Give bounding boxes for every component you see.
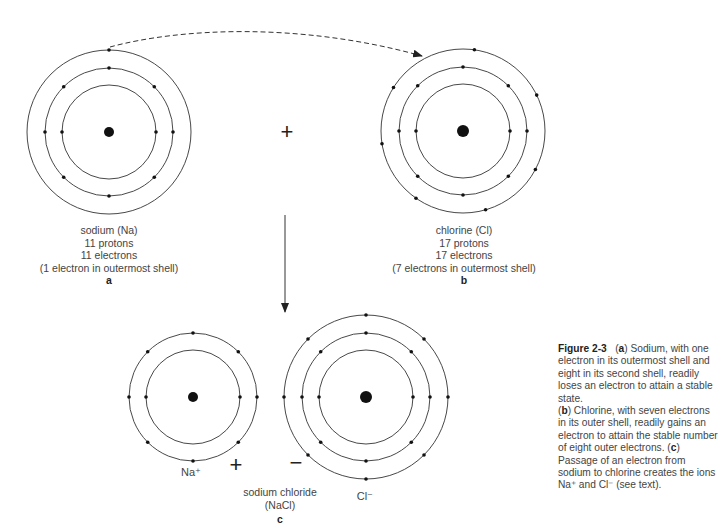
sodium-electron [154, 130, 158, 134]
sodium-protons: 11 protons [40, 237, 178, 250]
chlorine-electron [507, 84, 511, 88]
sodium-ion-electron [144, 395, 148, 399]
chlorine-electron [461, 193, 465, 197]
chloride-ion-electron [364, 331, 368, 335]
sodium-electron [43, 130, 47, 134]
sodium-ion-charge: + [230, 454, 243, 476]
sodium-nucleus [104, 127, 114, 137]
chloride-ion [282, 313, 450, 481]
sodium-electrons: 11 electrons [40, 249, 178, 262]
chlorine-nucleus [457, 125, 469, 137]
chlorine-electron [380, 142, 384, 146]
sodium-note: (1 electron in outermost shell) [40, 262, 178, 275]
compound-label: sodium chloride (NaCl) c [243, 486, 317, 526]
chloride-ion-electron [317, 395, 321, 399]
chlorine-electron [392, 86, 396, 90]
electron-transfer-arrow [110, 32, 422, 56]
sodium-ion-electron [191, 331, 195, 335]
chlorine-atom [380, 48, 545, 213]
chloride-ion-electron [306, 337, 310, 341]
chloride-ion-electron [319, 350, 323, 354]
sodium-ion-electron [146, 350, 150, 354]
panel-b-label: b [392, 274, 536, 287]
chlorine-protons: 17 protons [392, 237, 536, 250]
figure-caption: Figure 2-3 (a) Sodium, with one electron… [558, 343, 718, 492]
sodium-ion-electron [237, 441, 241, 445]
sodium-electron [153, 176, 157, 180]
panel-c-label: c [243, 513, 317, 526]
chloride-ion-electron [282, 395, 286, 399]
reactant-plus-sign: + [281, 121, 294, 143]
caption-body: (a) Sodium, with one electron in its out… [558, 343, 718, 490]
chloride-ion-electron [428, 395, 432, 399]
sodium-atom [27, 48, 191, 214]
compound-formula: (NaCl) [243, 499, 317, 512]
chloride-ion-electron [410, 441, 414, 445]
chloride-ion-electron [364, 313, 368, 317]
chloride-ion-electron [300, 395, 304, 399]
chloride-ion-charge: − [290, 452, 303, 474]
sodium-ion-electron [255, 395, 259, 399]
chlorine-label: chlorine (Cl) 17 protons 17 electrons (7… [392, 224, 536, 287]
sodium-ion-electron [191, 459, 195, 463]
chloride-ion-electron [410, 350, 414, 354]
chlorine-electron [461, 65, 465, 69]
sodium-ion-electron [127, 395, 131, 399]
sodium-label: sodium (Na) 11 protons 11 electrons (1 e… [40, 224, 178, 287]
chloride-ion-electron [319, 441, 323, 445]
sodium-electron [107, 66, 111, 70]
caption-text: ) Chlorine, with seven electrons in its … [558, 405, 718, 453]
compound-name: sodium chloride [243, 486, 317, 499]
chloride-ion-electron [364, 459, 368, 463]
chloride-ion-nucleus [360, 391, 372, 403]
sodium-electron [107, 194, 111, 198]
sodium-electron [153, 85, 157, 89]
sodium-ion-nucleus [188, 392, 198, 402]
chlorine-electron [508, 129, 512, 133]
sodium-electron [107, 48, 111, 52]
sodium-electron [62, 85, 66, 89]
chlorine-electron [507, 175, 511, 179]
sodium-ion-electron [238, 395, 242, 399]
chlorine-electron [414, 196, 418, 200]
sodium-electron [60, 130, 64, 134]
sodium-ion [127, 331, 259, 463]
chlorine-electron [484, 208, 488, 212]
chloride-ion-electron [422, 453, 426, 457]
chlorine-electrons: 17 electrons [392, 249, 536, 262]
sodium-electron [62, 176, 66, 180]
panel-a-label: a [40, 274, 178, 287]
chlorine-electron [416, 175, 420, 179]
chlorine-electron [473, 48, 477, 52]
sodium-ion-electron [237, 350, 241, 354]
figure-number: Figure 2-3 [558, 343, 607, 354]
chlorine-note: (7 electrons in outermost shell) [392, 262, 536, 275]
chlorine-electron [525, 129, 529, 133]
chlorine-electron [534, 168, 538, 172]
sodium-name: sodium (Na) [40, 224, 178, 237]
sodium-ion-symbol: Na⁺ [181, 466, 201, 479]
chloride-ion-electron [446, 395, 450, 399]
chloride-ion-electron [306, 453, 310, 457]
chloride-ion-symbol: Cl⁻ [357, 490, 373, 503]
sodium-electron [171, 130, 175, 134]
chlorine-name: chlorine (Cl) [392, 224, 536, 237]
chlorine-electron [414, 129, 418, 133]
chloride-ion-electron [411, 395, 415, 399]
chlorine-electron [535, 93, 539, 97]
chlorine-electron [416, 84, 420, 88]
chloride-ion-electron [364, 477, 368, 481]
chloride-ion-electron [422, 337, 426, 341]
sodium-ion-electron [146, 441, 150, 445]
chlorine-electron [397, 129, 401, 133]
